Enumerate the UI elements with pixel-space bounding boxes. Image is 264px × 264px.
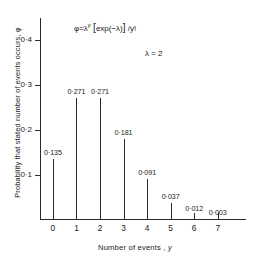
y-tick-label: 0·3 [20,80,32,89]
x-tick-label: 6 [184,223,204,233]
formula-exp-body: exp(−λ) [96,24,123,33]
formula-exponent: y [88,22,91,28]
poisson-distribution-chart: Probability that stated number of events… [0,0,264,264]
y-tick: 0·2 [35,130,41,131]
formula-annotation: φ=λy [exp(−λ)] /y! [74,22,136,33]
y-tick-label: 0·4 [20,35,32,44]
data-label: 0·135 [31,148,75,157]
data-label: 0·181 [102,128,146,137]
stem-line [53,159,54,220]
x-tick-label: 5 [161,223,181,233]
formula-bracket-close: ] [123,22,126,33]
plot-area: 0·10·20·30·4 01234567 0·1350·2710·2710·1… [40,18,246,224]
stem-line [218,219,219,220]
x-axis-variable: y [168,243,172,252]
x-tick-label: 1 [66,223,86,233]
x-axis-label: Number of events , y [40,243,230,252]
lambda-annotation: λ = 2 [145,49,163,58]
stem-line [76,98,77,220]
data-label: 0·003 [196,208,240,217]
x-axis-line [40,219,246,220]
x-tick-label: 0 [43,223,63,233]
y-tick: 0·4 [35,40,41,41]
x-tick-label: 2 [90,223,110,233]
x-axis-label-text: Number of events , [98,243,168,252]
formula-phi: φ=λ [74,24,88,33]
data-label: 0·271 [78,87,122,96]
formula-divisor: /y! [128,24,136,33]
data-label: 0·037 [149,192,193,201]
x-tick-label: 7 [208,223,228,233]
y-tick: 0·3 [35,85,41,86]
x-tick-label: 3 [114,223,134,233]
stem-line [100,98,101,220]
x-tick-label: 4 [137,223,157,233]
y-tick-label: 0·1 [20,170,32,179]
data-label: 0·091 [125,168,169,177]
y-tick-label: 0·2 [20,125,32,134]
y-axis-line [40,18,41,220]
y-tick: 0·1 [35,175,41,176]
stem-line [124,139,125,220]
